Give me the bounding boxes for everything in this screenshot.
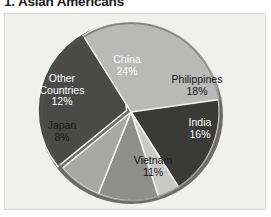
chart-panel: China 24% Philippines 18% India 16% Viet… <box>4 13 266 210</box>
pie-chart-svg <box>5 14 266 210</box>
slice-label-philippines: Philippines 18% <box>157 74 237 97</box>
page-title: 1. Asian Americans <box>4 0 124 9</box>
slice-label-other-countries: Other Countries 12% <box>24 73 100 108</box>
slice-label-india: India 16% <box>170 117 230 140</box>
slice-label-china: China 24% <box>94 54 160 77</box>
pie-chart: China 24% Philippines 18% India 16% Viet… <box>5 14 265 209</box>
slice-label-japan: Japan 8% <box>33 120 91 143</box>
slice-label-vietnam: Vietnam 11% <box>118 155 188 178</box>
